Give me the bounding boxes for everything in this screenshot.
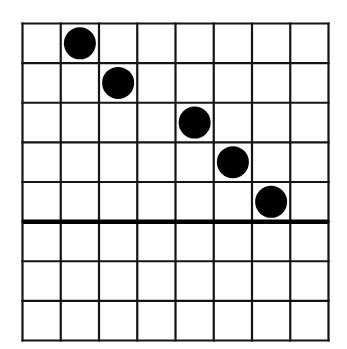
black-circle-piece: [64, 27, 96, 59]
black-circle-piece: [255, 186, 287, 218]
board-background: [0, 0, 347, 349]
black-circle-piece: [102, 67, 134, 99]
black-circle-piece: [179, 107, 211, 139]
grid-board: [0, 0, 347, 349]
black-circle-piece: [217, 146, 249, 178]
